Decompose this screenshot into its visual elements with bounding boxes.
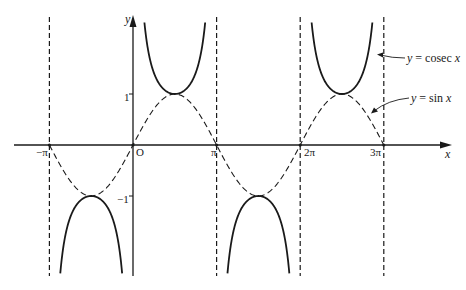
y-axis-arrow-icon xyxy=(130,15,137,27)
y-axis-label: y xyxy=(125,13,130,25)
y-tick-label-1: 1 xyxy=(124,92,130,103)
annotation-arrows xyxy=(371,53,409,114)
x-tick-label-pi: π xyxy=(211,147,217,158)
x-tick-label-3pi: 3π xyxy=(370,147,381,158)
sin-annotation-func: = sin xyxy=(416,91,446,105)
x-axis-label: x xyxy=(445,148,450,160)
sin-annotation-x: x xyxy=(446,91,451,105)
cosec-annotation: y = cosec x xyxy=(407,52,460,64)
cosec-annotation-func: = cosec xyxy=(412,51,454,65)
x-tick-label-neg-pi: −π xyxy=(36,147,48,158)
cosec-branch xyxy=(60,196,122,273)
cosec-branch xyxy=(227,196,289,273)
cosec-branch xyxy=(144,22,205,94)
cosec-annotation-x: x xyxy=(455,51,460,65)
sin-pointer xyxy=(374,98,409,111)
y-tick-label-neg1: −1 xyxy=(117,194,129,205)
sin-annotation: y = sin x xyxy=(411,92,451,104)
cosec-arrowhead-icon xyxy=(377,53,383,58)
x-tick-label-2pi: 2π xyxy=(304,147,315,158)
cosec-branch xyxy=(312,22,373,94)
chart-canvas xyxy=(0,0,466,290)
origin-label: O xyxy=(136,147,144,158)
